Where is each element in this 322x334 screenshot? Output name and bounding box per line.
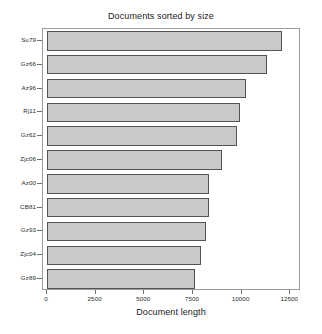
y-tick-label-az00: Az00 [21,179,36,186]
bar-zjc06[interactable] [47,150,222,170]
bar-row [43,269,299,289]
x-axis-title: Document length [42,307,300,317]
bar-row [43,31,299,51]
bar-su79[interactable] [47,31,282,51]
y-tick-mark [37,254,42,255]
x-tick-mark [95,290,96,294]
bar-row [43,126,299,146]
y-tick-label-gz62: Gz62 [21,131,36,138]
x-tick-label-10000: 10000 [232,295,250,302]
y-tick-label-rj11: Rj11 [23,107,36,114]
x-tick-label-2500: 2500 [88,295,102,302]
bar-az00[interactable] [47,174,209,194]
y-tick-label-gz93: Gz93 [21,226,36,233]
y-tick-mark [37,135,42,136]
y-tick-label-cb81: CB81 [20,203,36,210]
y-tick-mark [37,230,42,231]
y-tick-label-gz89: Gz89 [21,274,36,281]
y-tick-mark [37,111,42,112]
bar-gz93[interactable] [47,222,206,242]
y-tick-label-zjc04: Zjc04 [20,250,36,257]
bar-cb81[interactable] [47,198,209,218]
y-tick-label-az96: Az96 [21,84,36,91]
y-tick-mark [37,278,42,279]
y-tick-mark [37,64,42,65]
x-tick-mark [241,290,242,294]
y-tick-label-zjc06: Zjc06 [20,155,36,162]
y-tick-mark [37,159,42,160]
y-tick-mark [37,183,42,184]
bar-rj11[interactable] [47,103,240,123]
bar-row [43,150,299,170]
bar-row [43,103,299,123]
plot-frame [42,28,300,290]
y-tick-mark [37,88,42,89]
x-tick-mark [46,290,47,294]
y-tick-mark [37,207,42,208]
bar-row [43,55,299,75]
bar-gz62[interactable] [47,126,237,146]
bar-row [43,174,299,194]
x-tick-label-0: 0 [44,295,48,302]
bar-row [43,198,299,218]
chart-figure: Documents sorted by size Su79Gz66Az96Rj1… [0,0,322,334]
chart-title: Documents sorted by size [0,11,322,21]
x-tick-label-5000: 5000 [136,295,150,302]
bar-row [43,246,299,266]
bar-zjc04[interactable] [47,246,201,266]
bar-row [43,79,299,99]
bar-gz66[interactable] [47,55,267,75]
y-tick-mark [37,40,42,41]
y-tick-label-gz66: Gz66 [21,60,36,67]
bar-row [43,222,299,242]
x-tick-mark [143,290,144,294]
x-tick-label-12500: 12500 [280,295,298,302]
x-tick-mark [192,290,193,294]
bar-gz89[interactable] [47,269,195,289]
x-tick-mark [289,290,290,294]
x-tick-label-7500: 7500 [185,295,199,302]
bar-az96[interactable] [47,79,246,99]
plot-area [43,29,299,289]
y-tick-label-su79: Su79 [21,36,36,43]
